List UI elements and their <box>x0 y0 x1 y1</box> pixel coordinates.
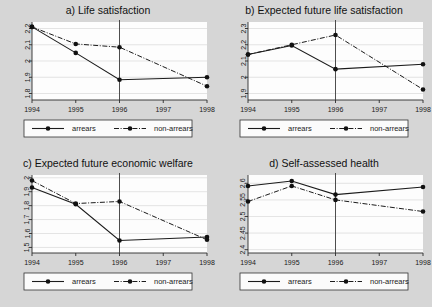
panel-c-x-tick-label: 1998 <box>199 259 215 266</box>
panel-a-marker <box>73 42 78 47</box>
panel-d-canvas: d) Self-assessed health2.42.452.52.552.6… <box>216 153 432 307</box>
panel-d-marker <box>289 184 294 189</box>
panel-a-marker <box>117 77 122 82</box>
panel-d: d) Self-assessed health2.42.452.52.552.6… <box>216 153 432 307</box>
panel-d-marker <box>246 199 251 204</box>
panel-d-y-tick-label: 2.6 <box>240 178 247 188</box>
panel-d-marker <box>246 184 251 189</box>
panel-c-legend-arrears-label: arrears <box>72 277 96 286</box>
panel-d-marker <box>421 209 426 214</box>
panel-b-y-tick-label: 1.9 <box>240 89 247 99</box>
panel-a-marker <box>30 25 35 30</box>
panel-b-marker <box>421 62 426 67</box>
panel-c-y-tick-label: 1.5 <box>24 242 31 252</box>
panel-a-canvas: a) Life satisfaction1.81.922.12.21994199… <box>0 0 216 153</box>
panel-c-x-tick-label: 1994 <box>24 259 40 266</box>
panel-b-x-tick-label: 1997 <box>371 106 387 113</box>
panel-c-marker <box>117 238 122 243</box>
panel-b-y-tick-label: 2 <box>240 75 247 79</box>
panel-b-canvas: b) Expected future life satisfaction1.92… <box>216 0 432 153</box>
panel-b-title: b) Expected future life satisfaction <box>245 4 403 16</box>
panel-a: a) Life satisfaction1.81.922.12.21994199… <box>0 0 216 153</box>
panel-d-y-tick-label: 2.45 <box>240 226 247 240</box>
panel-c-legend-non-arrears-marker <box>128 279 133 284</box>
panel-c-marker <box>30 185 35 190</box>
panel-a-x-tick-label: 1994 <box>24 106 40 113</box>
panel-d-y-tick-label: 2.4 <box>240 245 247 255</box>
panel-b-marker <box>333 33 338 38</box>
panel-a-x-tick-label: 1995 <box>68 106 84 113</box>
panel-c-x-tick-label: 1997 <box>155 259 171 266</box>
panel-a-legend-non-arrears-label: non-arrears <box>154 124 193 133</box>
panel-a-marker <box>117 45 122 50</box>
panel-c-canvas: c) Expected future economic welfare1.51.… <box>0 153 216 307</box>
panel-d-legend-non-arrears-label: non-arrears <box>370 277 409 286</box>
panel-a-marker <box>73 51 78 56</box>
panel-a-x-tick-label: 1996 <box>112 106 128 113</box>
panel-a-y-tick-label: 2.1 <box>24 40 31 50</box>
panel-c-marker <box>117 199 122 204</box>
panel-b-x-tick-label: 1998 <box>415 106 431 113</box>
panel-d-x-tick-label: 1996 <box>328 259 344 266</box>
panel-c-legend-arrears-marker <box>46 279 51 284</box>
panel-c-title: c) Expected future economic welfare <box>23 157 193 169</box>
panel-a-legend-non-arrears-marker <box>128 126 133 131</box>
panel-b-x-tick-label: 1995 <box>284 106 300 113</box>
panel-d-legend-non-arrears-marker <box>344 279 349 284</box>
panel-b-legend-non-arrears-label: non-arrears <box>370 124 409 133</box>
panel-c-y-tick-label: 2 <box>24 176 31 180</box>
panel-a-x-tick-label: 1998 <box>199 106 215 113</box>
panel-b: b) Expected future life satisfaction1.92… <box>216 0 432 153</box>
panel-c-marker <box>30 178 35 183</box>
panel-d-marker <box>333 192 338 197</box>
panel-c-x-tick-label: 1995 <box>68 259 84 266</box>
panel-c-legend-non-arrears-label: non-arrears <box>154 277 193 286</box>
panel-a-marker <box>205 75 210 80</box>
panel-d-x-tick-label: 1997 <box>371 259 387 266</box>
panel-a-x-tick-label: 1997 <box>155 106 171 113</box>
panel-d-marker <box>421 185 426 190</box>
panel-a-y-tick-label: 1.8 <box>24 89 31 99</box>
panel-c: c) Expected future economic welfare1.51.… <box>0 153 216 307</box>
panel-a-legend-arrears-marker <box>46 126 51 131</box>
panel-d-x-tick-label: 1994 <box>240 259 256 266</box>
panel-d-x-tick-label: 1998 <box>415 259 431 266</box>
panel-d-x-tick-label: 1995 <box>284 259 300 266</box>
panel-c-y-tick-label: 1.6 <box>24 229 31 239</box>
panel-a-legend-arrears-label: arrears <box>72 124 96 133</box>
panel-d-y-tick-label: 2.55 <box>240 193 247 207</box>
panel-a-marker <box>205 84 210 89</box>
panel-b-x-tick-label: 1994 <box>240 106 256 113</box>
panel-c-x-tick-label: 1996 <box>112 259 128 266</box>
panel-c-y-tick-label: 1.9 <box>24 187 31 197</box>
panel-b-y-tick-label: 2.1 <box>240 56 247 66</box>
panel-a-y-tick-label: 1.9 <box>24 72 31 82</box>
panel-d-title: d) Self-assessed health <box>269 157 379 169</box>
panel-b-legend-arrears-label: arrears <box>288 124 312 133</box>
panel-c-marker <box>205 237 210 242</box>
panel-c-y-tick-label: 1.8 <box>24 201 31 211</box>
panel-b-marker <box>289 42 294 47</box>
panel-a-y-tick-label: 2.2 <box>24 24 31 34</box>
panel-b-x-tick-label: 1996 <box>328 106 344 113</box>
panel-b-legend-arrears-marker <box>262 126 267 131</box>
panel-c-y-tick-label: 1.7 <box>24 215 31 225</box>
panel-b-marker <box>333 67 338 72</box>
panel-b-marker <box>421 87 426 92</box>
panel-d-marker <box>289 179 294 184</box>
panel-b-marker <box>246 52 251 57</box>
panel-b-legend-non-arrears-marker <box>344 126 349 131</box>
panel-d-legend-arrears-marker <box>262 279 267 284</box>
panel-c-marker <box>73 201 78 206</box>
panel-b-y-tick-label: 2.3 <box>240 24 247 34</box>
panel-d-marker <box>333 198 338 203</box>
panel-a-y-tick-label: 2 <box>24 59 31 63</box>
panel-d-legend-arrears-label: arrears <box>288 277 312 286</box>
panel-a-title: a) Life satisfaction <box>66 4 151 16</box>
figure-panel-grid: a) Life satisfaction1.81.922.12.21994199… <box>0 0 432 307</box>
panel-b-y-tick-label: 2.2 <box>240 40 247 50</box>
panel-d-y-tick-label: 2.5 <box>240 212 247 222</box>
